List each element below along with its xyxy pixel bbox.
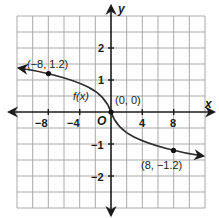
x-tick-neg4: −4 bbox=[67, 117, 80, 129]
origin-label: O bbox=[97, 114, 107, 128]
point-pos8 bbox=[171, 148, 176, 153]
point-origin bbox=[108, 109, 113, 114]
point-label-origin: (0, 0) bbox=[115, 94, 141, 106]
y-tick-neg1: −1 bbox=[91, 139, 104, 151]
function-label: f(x) bbox=[73, 90, 89, 102]
y-tick-neg2: −2 bbox=[91, 171, 104, 183]
x-axis-label: x bbox=[204, 97, 213, 111]
point-label-neg8: (−8, 1.2) bbox=[27, 58, 68, 70]
y-tick-1: 1 bbox=[98, 74, 104, 86]
point-neg8 bbox=[46, 71, 51, 76]
x-tick-4: 4 bbox=[139, 117, 146, 129]
y-axis-label: y bbox=[117, 2, 126, 16]
function-graph: x y O −8 −4 4 8 2 1 −1 −2 (−8, 1.2) (0, … bbox=[0, 0, 219, 218]
point-label-pos8: (8, −1.2) bbox=[141, 159, 182, 171]
x-tick-8: 8 bbox=[170, 117, 176, 129]
x-tick-neg8: −8 bbox=[35, 117, 48, 129]
y-tick-2: 2 bbox=[98, 42, 104, 54]
